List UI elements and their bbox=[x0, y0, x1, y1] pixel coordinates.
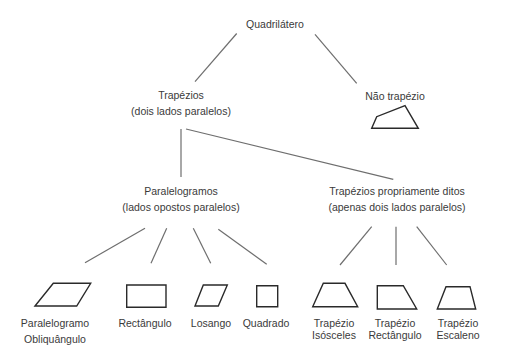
leaf-sublabel: Escaleno bbox=[436, 329, 479, 341]
diagram-canvas bbox=[0, 0, 505, 364]
node-sublabel: (dois lados paralelos) bbox=[131, 103, 231, 119]
leaf-sublabel: Rectângulo bbox=[368, 329, 421, 341]
node-quadrilatero: Quadrilátero bbox=[246, 16, 304, 32]
leaf-quadrado: Quadrado bbox=[243, 315, 290, 331]
node-label: Não trapézio bbox=[365, 88, 425, 104]
edge-proprios-escaleno bbox=[417, 227, 447, 265]
edge-paralelogramos-rectangulo bbox=[151, 228, 167, 263]
leaf-sublabel: Isósceles bbox=[312, 329, 356, 341]
leaf-losango: Losango bbox=[191, 315, 231, 331]
nao-trapezio-shape bbox=[372, 106, 419, 129]
leaf-sublabel: Obliquângulo bbox=[21, 331, 89, 347]
leaf-paralelogramo-obliquangulo: Paralelogramo Obliquângulo bbox=[21, 315, 89, 347]
edge-trapezios-proprios bbox=[186, 129, 393, 179]
node-label: Trapézios propriamente ditos bbox=[328, 183, 465, 199]
edge-root-trapezios bbox=[195, 34, 237, 82]
edge-proprios-isosceles bbox=[340, 227, 372, 265]
edge-root-nao-trapezio bbox=[315, 34, 357, 83]
right-trapezoid-shape bbox=[377, 286, 416, 309]
scalene-trapezoid-shape bbox=[437, 287, 475, 309]
leaf-label: Trapézio bbox=[436, 317, 479, 329]
node-label: Trapézios bbox=[131, 87, 231, 103]
leaf-trapezio-rectangulo: Trapézio Rectângulo bbox=[368, 317, 421, 341]
node-label: Quadrilátero bbox=[246, 16, 304, 32]
leaf-label: Quadrado bbox=[243, 315, 290, 331]
leaf-label: Rectângulo bbox=[118, 315, 171, 331]
isosceles-trapezoid-shape bbox=[313, 283, 358, 306]
node-nao-trapezio: Não trapézio bbox=[365, 88, 425, 104]
leaf-trapezio-escaleno: Trapézio Escaleno bbox=[436, 317, 479, 341]
leaf-label: Paralelogramo bbox=[21, 315, 89, 331]
square-shape bbox=[257, 286, 278, 307]
leaf-trapezio-isosceles: Trapézio Isósceles bbox=[312, 317, 356, 341]
node-paralelogramos: Paralelogramos (lados opostos paralelos) bbox=[122, 183, 239, 215]
edge-paralelogramos-quadrado bbox=[218, 229, 266, 264]
node-label: Paralelogramos bbox=[122, 183, 239, 199]
parallelogram-shape bbox=[35, 283, 91, 306]
leaf-label: Losango bbox=[191, 315, 231, 331]
leaf-label: Trapézio bbox=[368, 317, 421, 329]
leaf-rectangulo: Rectângulo bbox=[118, 315, 171, 331]
node-trapezios: Trapézios (dois lados paralelos) bbox=[131, 87, 231, 119]
node-trapezios-proprios: Trapézios propriamente ditos (apenas doi… bbox=[328, 183, 465, 215]
edge-paralelogramos-obliquangulo bbox=[85, 228, 145, 262]
node-sublabel: (apenas dois lados paralelos) bbox=[328, 199, 465, 215]
leaf-label: Trapézio bbox=[312, 317, 356, 329]
node-sublabel: (lados opostos paralelos) bbox=[122, 199, 239, 215]
rhombus-shape bbox=[195, 285, 227, 306]
edge-paralelogramos-losango bbox=[193, 228, 210, 263]
rectangle-shape bbox=[127, 285, 166, 307]
